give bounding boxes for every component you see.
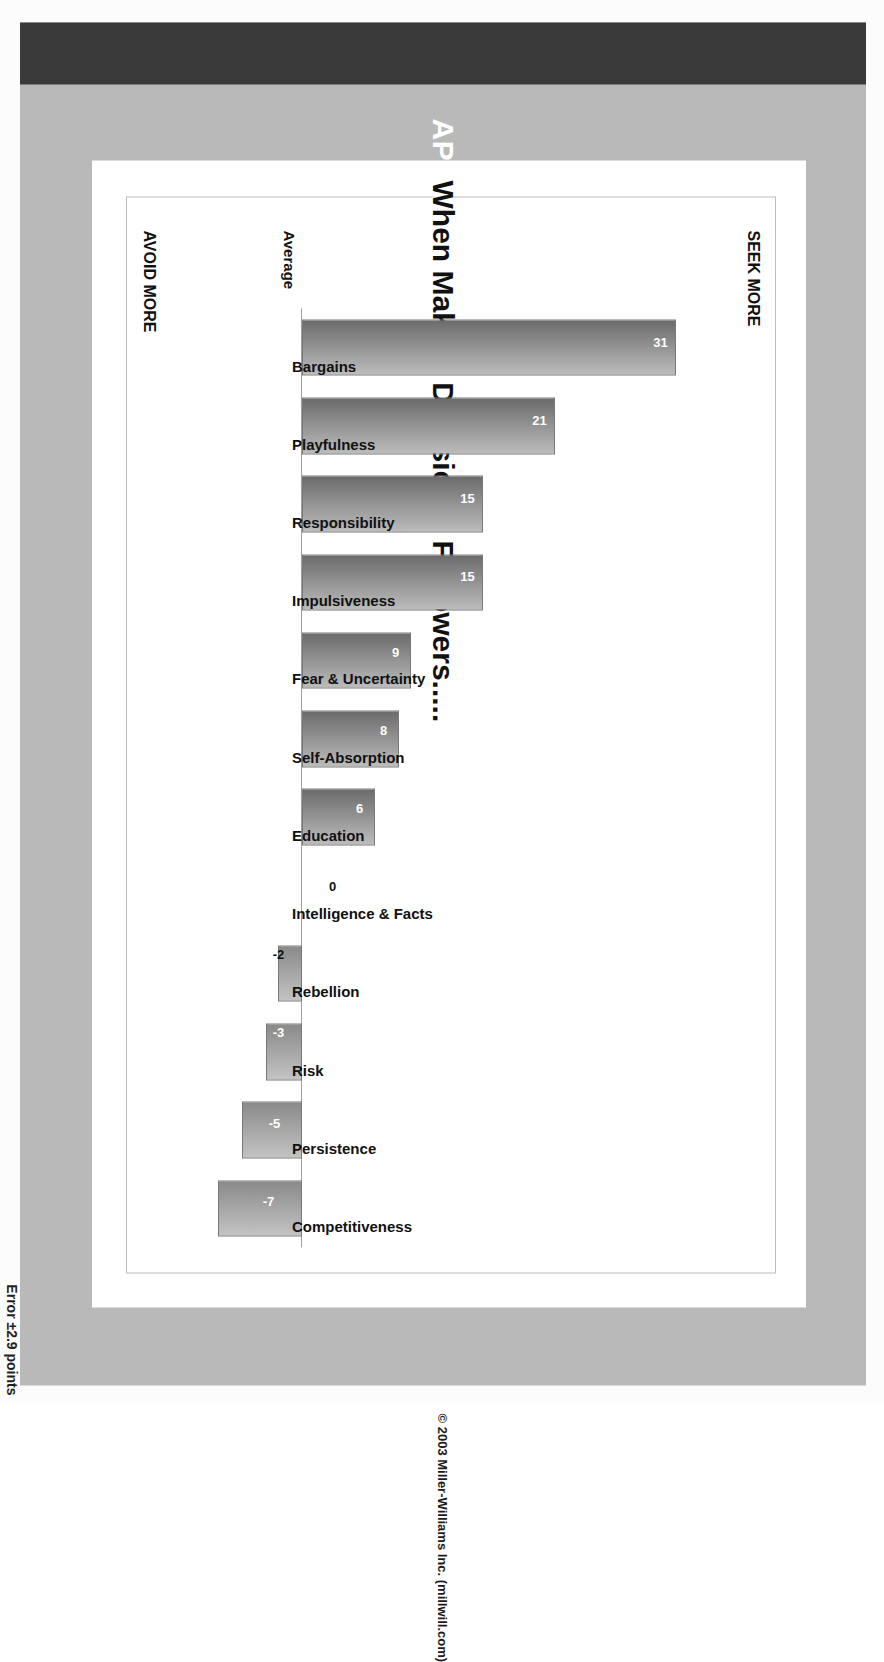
bar-slot: -2Rebellion bbox=[182, 934, 724, 1012]
slide-subtitle: When Making Decisions, Followers..... bbox=[20, 84, 866, 158]
category-label: Risk bbox=[292, 1061, 324, 1078]
y-axis-title: Average bbox=[281, 230, 298, 289]
copyright-text: © 2003 Miller-Williams Inc. (millwill.co… bbox=[436, 1309, 451, 1662]
bar-slot: 15Responsibility bbox=[182, 464, 724, 542]
bar-value-label: 21 bbox=[533, 413, 547, 428]
category-label: Fear & Uncertainty bbox=[292, 669, 425, 686]
bar-value-label: 15 bbox=[460, 491, 474, 506]
bar-chart: SEEK MORE AVOID MORE Average 31Bargains2… bbox=[140, 222, 764, 1253]
bar-slot: 0Intelligence & Facts bbox=[182, 856, 724, 934]
bar-value-label: -3 bbox=[273, 1025, 285, 1040]
bar-slot: -3Risk bbox=[182, 1012, 724, 1090]
category-label: Playfulness bbox=[292, 435, 375, 452]
bar-value-label: 6 bbox=[355, 800, 362, 815]
bar-value-label: 8 bbox=[380, 722, 387, 737]
bar-slot: 21Playfulness bbox=[182, 386, 724, 464]
category-label: Bargains bbox=[292, 357, 356, 374]
bar-slot: -5Persistence bbox=[182, 1091, 724, 1169]
bar bbox=[218, 1180, 302, 1236]
bar-value-label: 0 bbox=[329, 878, 336, 893]
bar-value-label: -2 bbox=[273, 946, 285, 961]
category-label: Competitiveness bbox=[292, 1217, 412, 1234]
category-label: Intelligence & Facts bbox=[292, 904, 433, 921]
bar-value-label: 15 bbox=[460, 569, 474, 584]
category-label: Persistence bbox=[292, 1139, 376, 1156]
avoid-more-label: AVOID MORE bbox=[140, 230, 158, 332]
category-label: Responsibility bbox=[292, 513, 395, 530]
bar-value-label: -7 bbox=[263, 1194, 275, 1209]
copyright-notice: © 2003 Miller-Williams Inc. (millwill.co… bbox=[20, 1309, 866, 1381]
bar-slot: 9Fear & Uncertainty bbox=[182, 621, 724, 699]
category-label: Self-Absorption bbox=[292, 748, 405, 765]
bar-slot: 8Self-Absorption bbox=[182, 699, 724, 777]
bar-slot: 6Education bbox=[182, 778, 724, 856]
bars-container: 31Bargains21Playfulness15Responsibility1… bbox=[182, 308, 724, 1247]
error-note: Error ±2.9 points bbox=[4, 1284, 20, 1395]
bar bbox=[302, 319, 675, 375]
slide-title: APPROACH PROFILE for FOLLOWERS bbox=[20, 22, 866, 84]
category-label: Rebellion bbox=[292, 982, 360, 999]
seek-more-label: SEEK MORE bbox=[744, 230, 762, 326]
bar-value-label: -5 bbox=[269, 1115, 281, 1130]
bar-value-label: 31 bbox=[653, 334, 667, 349]
category-label: Education bbox=[292, 826, 365, 843]
bar-slot: 31Bargains bbox=[182, 308, 724, 386]
category-label: Impulsiveness bbox=[292, 591, 395, 608]
bar-slot: -7Competitiveness bbox=[182, 1169, 724, 1247]
bar-value-label: 9 bbox=[392, 644, 399, 659]
bar-slot: 15Impulsiveness bbox=[182, 543, 724, 621]
